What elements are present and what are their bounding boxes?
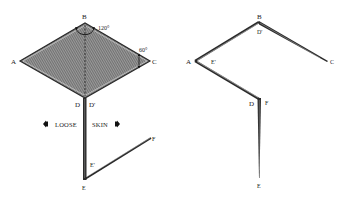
label-f-right: F xyxy=(265,100,269,106)
label-e-right: E xyxy=(257,183,261,189)
edge-ab xyxy=(195,22,259,61)
label-d-right: D xyxy=(249,100,254,108)
edge-ad xyxy=(195,61,259,99)
edge-bc xyxy=(259,21,328,62)
label-e-prime-right: E' xyxy=(211,59,216,65)
edge-bc-highlight xyxy=(260,23,320,58)
loose-arrow-left-icon xyxy=(43,121,48,128)
label-d: D xyxy=(75,101,80,109)
loose-label: LOOSE xyxy=(55,121,77,128)
label-e-prime: E' xyxy=(90,162,95,168)
label-c: C xyxy=(152,58,157,66)
skin-label: SKIN xyxy=(92,121,108,128)
label-e: E xyxy=(82,185,86,191)
label-b-right: B xyxy=(257,13,262,21)
flap-diagram: B A C D D' E' E F 120° 60° LOOSE SKIN B … xyxy=(0,0,343,202)
incision-ef xyxy=(85,138,151,179)
skin-arrow-right-icon xyxy=(115,121,120,128)
label-d-prime: D' xyxy=(89,101,95,109)
label-b: B xyxy=(82,13,87,21)
label-a-right: A xyxy=(186,58,191,66)
label-d-prime-right: D' xyxy=(257,29,262,35)
label-a: A xyxy=(11,58,16,66)
left-diagram: B A C D D' E' E F 120° 60° LOOSE SKIN xyxy=(11,13,157,191)
edge-ad-highlight xyxy=(197,62,258,98)
angle-label-b: 120° xyxy=(98,25,110,31)
label-f: F xyxy=(152,136,156,142)
right-diagram: B D' A E' C D F E xyxy=(186,13,334,189)
incision-ef-highlight xyxy=(87,138,150,177)
edge-ab-highlight xyxy=(197,24,258,61)
angle-label-c: 60° xyxy=(139,47,148,53)
label-c-right: C xyxy=(330,59,334,65)
